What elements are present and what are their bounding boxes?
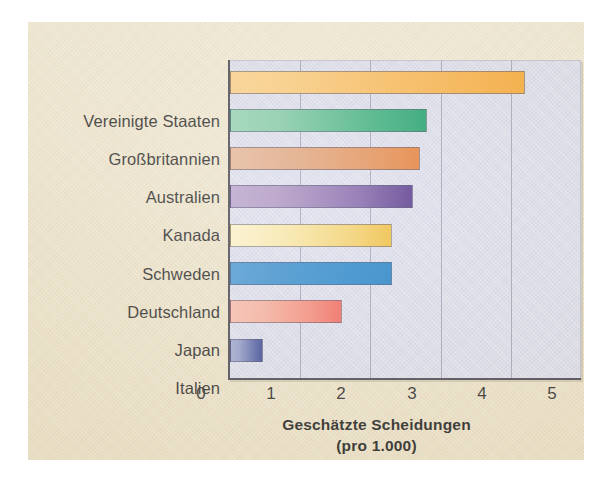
xtick-4: 4 bbox=[477, 384, 486, 404]
x-axis-title-sub: (pro 1.000) bbox=[200, 435, 553, 456]
category-label-6: Japan bbox=[30, 341, 220, 360]
xtick-1: 1 bbox=[266, 384, 275, 404]
bar-australien[interactable] bbox=[230, 147, 420, 170]
bar-japan[interactable] bbox=[230, 300, 342, 323]
category-label-2: Australien bbox=[30, 188, 220, 207]
chart-card: Vereinigte Staaten Großbritannien Austra… bbox=[28, 22, 584, 460]
bar-italien[interactable] bbox=[230, 339, 263, 362]
category-label-7: Italien bbox=[30, 379, 220, 398]
bar-kanada[interactable] bbox=[230, 185, 413, 208]
category-label-1: Großbritannien bbox=[30, 150, 220, 169]
bar-schweden[interactable] bbox=[230, 224, 392, 247]
xtick-3: 3 bbox=[407, 384, 416, 404]
category-label-0: Vereinigte Staaten bbox=[30, 112, 220, 131]
plot-area bbox=[228, 60, 581, 380]
category-label-3: Kanada bbox=[30, 226, 220, 245]
category-label-5: Deutschland bbox=[30, 303, 220, 322]
category-label-4: Schweden bbox=[30, 265, 220, 284]
plot-top-edge bbox=[230, 60, 581, 61]
gridline-3 bbox=[441, 60, 442, 378]
gridline-4 bbox=[511, 60, 512, 378]
plot-right-edge bbox=[580, 60, 581, 378]
bar-vereinigte-staaten[interactable] bbox=[230, 71, 525, 94]
xtick-0: 0 bbox=[196, 384, 205, 404]
x-axis-title: Geschätzte Scheidungen (pro 1.000) bbox=[200, 414, 553, 456]
xtick-2: 2 bbox=[336, 384, 345, 404]
gridline-1 bbox=[300, 60, 301, 378]
xtick-5: 5 bbox=[547, 384, 556, 404]
chart-screenshot: Vereinigte Staaten Großbritannien Austra… bbox=[0, 0, 613, 478]
x-axis-title-main: Geschätzte Scheidungen bbox=[282, 416, 471, 433]
bar-deutschland[interactable] bbox=[230, 262, 392, 285]
bar-grossbritannien[interactable] bbox=[230, 109, 427, 132]
category-axis-labels: Vereinigte Staaten Großbritannien Austra… bbox=[28, 60, 220, 380]
gridline-2 bbox=[370, 60, 371, 378]
